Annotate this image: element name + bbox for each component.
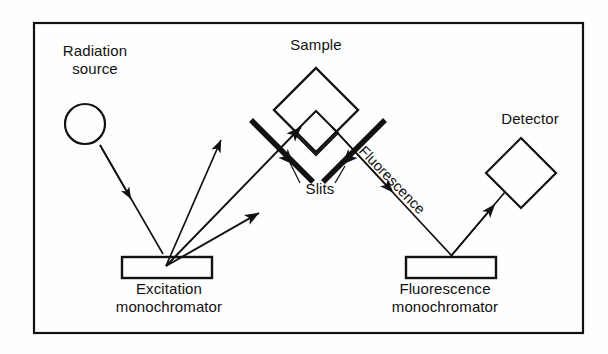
sample-label: Sample: [271, 36, 361, 54]
radiation-source-label-line2: source: [72, 60, 118, 77]
excitation-monochromator-label-line2: monochromator: [116, 298, 222, 315]
excitation-monochromator-label-line1: Excitation: [136, 280, 202, 297]
detector-diamond: [486, 138, 556, 208]
radiation-source-lamp: [65, 104, 105, 144]
fluorescence-monochromator-box: [406, 257, 496, 278]
ray-excitation-out-upper: [166, 140, 221, 266]
spectrofluorimeter-diagram: Radiationsource Sample Detector Slits Fl…: [0, 0, 608, 354]
ray-lamp-to-excitation-arrowhead: [100, 145, 131, 199]
fluorescence-monochromator-label: Fluorescencemonochromator: [370, 280, 520, 316]
radiation-source-label: Radiationsource: [38, 42, 152, 78]
sample-cuvette-inner-diamond: [294, 111, 338, 155]
ray-monochromator-to-detector-arrowhead: [451, 209, 491, 256]
fluorescence-monochromator-label-line2: monochromator: [392, 298, 498, 315]
fluorescence-monochromator-label-line1: Fluorescence: [399, 280, 490, 297]
slits-label: Slits: [292, 180, 348, 198]
radiation-source-label-line1: Radiation: [63, 42, 127, 59]
excitation-monochromator-label: Excitationmonochromator: [96, 280, 242, 316]
excitation-monochromator-box: [122, 257, 212, 278]
detector-label: Detector: [483, 110, 577, 128]
